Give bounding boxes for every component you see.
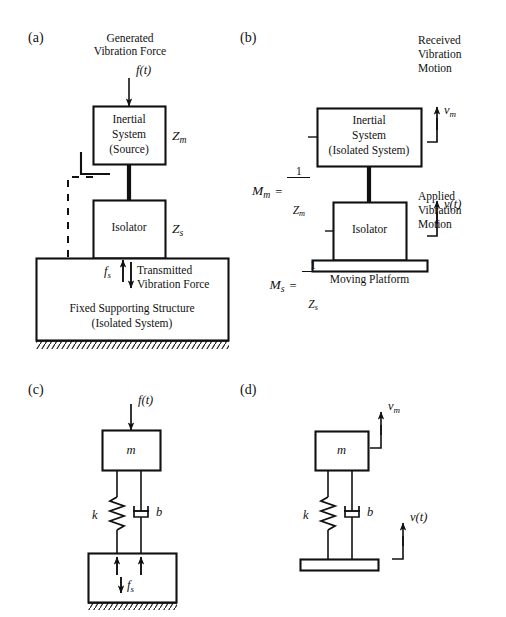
a-transmitted-label-line1: Transmitted <box>137 264 192 277</box>
b-mobility-s-lhs-sub: s <box>281 283 285 294</box>
b-mobility-m-lhs-sub: m <box>263 189 270 200</box>
a-transmitted-label-line2: Vibration Force <box>137 278 209 291</box>
a-impedance-zm-base: Z <box>172 128 180 143</box>
c-spring-symbol: k <box>92 508 98 522</box>
b-mobility-s-numerator: 1 <box>302 259 325 272</box>
d-top-velocity-bracket <box>370 425 381 448</box>
panel-d-graphics <box>301 412 404 571</box>
d-base-platform <box>301 560 379 571</box>
panel-a-tag: (a) <box>28 30 44 46</box>
b-mobility-s-denominator: Zs <box>302 297 325 313</box>
panel-c-tag: (c) <box>28 382 44 398</box>
b-applied-label-line3: Motion <box>418 218 452 231</box>
b-received-label-line1: Received <box>418 34 461 47</box>
c-spring-coil <box>110 497 124 530</box>
a-fixed-structure-line1: Fixed Supporting Structure <box>36 302 228 315</box>
b-mobility-s-den-sub: s <box>315 304 318 313</box>
d-spring-symbol: k <box>303 508 309 522</box>
a-impedance-zs: Zs <box>172 221 183 239</box>
b-moving-platform <box>313 261 428 272</box>
b-mobility-s-equation: Ms = 1 Zs <box>253 215 325 357</box>
figure-canvas: (a) Generated Vibration Force f(t) Inert… <box>0 0 506 617</box>
b-mobility-m-numerator: 1 <box>287 165 310 178</box>
a-generated-force-line2: Vibration Force <box>74 45 186 58</box>
b-mobility-s-lhs-base: M <box>269 277 280 292</box>
a-generated-force-line1: Generated <box>84 32 176 45</box>
a-inertial-system-line2: System <box>93 128 165 141</box>
d-base-velocity-bracket <box>392 536 403 559</box>
a-impedance-zm: Zm <box>172 128 187 146</box>
c-ground-hatch <box>88 603 177 610</box>
b-moving-platform-label: Moving Platform <box>312 273 427 286</box>
b-mobility-m-lhs: Mm <box>252 183 270 201</box>
a-impedance-zs-sub: s <box>180 227 184 238</box>
a-inertial-system-line1: Inertial <box>93 113 165 126</box>
a-impedance-zs-base: Z <box>172 221 180 236</box>
a-force-symbol: f(t) <box>136 63 151 77</box>
b-received-label-line2: Vibration <box>418 48 461 61</box>
a-transmitted-symbol-sub: s <box>107 270 111 280</box>
b-applied-velocity-symbol: v(t) <box>444 197 461 211</box>
b-inertial-system-line3: (Isolated System) <box>317 144 421 157</box>
b-inertial-system-line2: System <box>317 129 421 142</box>
a-separation-dashed-line <box>68 177 93 259</box>
d-damper-symbol: b <box>367 505 373 519</box>
d-spring-coil <box>321 497 335 530</box>
d-top-velocity-symbol: vm <box>388 399 400 415</box>
c-mass-symbol: m <box>102 443 160 457</box>
panel-d-tag: (d) <box>240 382 256 398</box>
b-mobility-m-lhs-base: M <box>252 183 263 198</box>
b-inertial-system-line1: Inertial <box>317 114 421 127</box>
b-mobility-m-equals: = <box>272 185 285 199</box>
b-received-motion-bracket <box>427 118 437 142</box>
a-impedance-zm-sub: m <box>180 134 187 145</box>
d-base-velocity-symbol: v(t) <box>410 510 427 524</box>
c-reaction-symbol: fs <box>127 578 134 594</box>
b-received-velocity-sub: m <box>450 109 457 119</box>
c-force-symbol: f(t) <box>138 393 153 407</box>
d-mass-symbol: m <box>315 443 368 457</box>
c-damper-symbol: b <box>156 505 162 519</box>
b-received-velocity-symbol: vm <box>444 103 456 119</box>
a-ground-hatch <box>36 341 229 349</box>
panel-b-tag: (b) <box>240 30 256 46</box>
a-transmitted-symbol: fs <box>104 264 111 280</box>
c-reaction-symbol-sub: s <box>130 584 134 594</box>
b-mobility-s-lhs: Ms <box>269 277 284 295</box>
d-top-velocity-sub: m <box>394 405 401 415</box>
a-inertial-system-line3: (Source) <box>93 143 165 156</box>
b-mobility-s-equals: = <box>286 279 299 293</box>
a-isolator-label: Isolator <box>93 221 165 234</box>
b-isolator-label: Isolator <box>333 223 406 236</box>
a-fixed-structure-line2: (Isolated System) <box>36 317 228 330</box>
b-received-label-line3: Motion <box>418 62 452 75</box>
